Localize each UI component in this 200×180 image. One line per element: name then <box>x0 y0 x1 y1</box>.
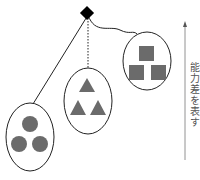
diagram-svg <box>0 0 200 180</box>
root-diamond-icon <box>80 6 94 20</box>
diagram-canvas: 能力差を表す <box>0 0 200 180</box>
circle-icon <box>22 116 38 132</box>
circle-icon <box>11 136 27 152</box>
group-circles <box>6 103 54 171</box>
connector-squares <box>88 15 137 34</box>
arrow-head-icon <box>183 21 187 27</box>
group-triangles <box>64 68 112 134</box>
square-icon <box>139 46 154 61</box>
side-label: 能力差を表す <box>186 62 200 128</box>
square-icon <box>151 65 166 80</box>
circle-icon <box>32 136 48 152</box>
square-icon <box>129 65 144 80</box>
